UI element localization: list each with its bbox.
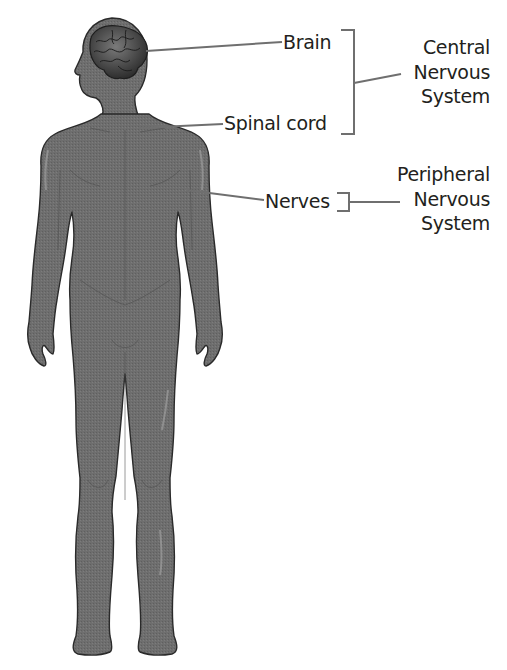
peripheral-nervous-system-label: Peripheral Nervous System bbox=[397, 162, 490, 236]
brain-label: Brain bbox=[283, 30, 331, 54]
cns-bracket-connector bbox=[354, 74, 401, 83]
cns-line-2: Nervous bbox=[414, 60, 490, 85]
pns-line-1: Peripheral bbox=[397, 162, 490, 187]
spinal-cord-label: Spinal cord bbox=[224, 111, 327, 135]
pns-line-2: Nervous bbox=[397, 187, 490, 212]
cns-line-3: System bbox=[414, 84, 490, 109]
pns-bracket bbox=[337, 193, 349, 211]
body-silhouette bbox=[28, 18, 223, 655]
pns-line-3: System bbox=[397, 211, 490, 236]
brain-leader-line bbox=[146, 42, 282, 51]
cns-bracket bbox=[341, 30, 354, 134]
central-nervous-system-label: Central Nervous System bbox=[414, 35, 490, 109]
cns-line-1: Central bbox=[414, 35, 490, 60]
nerves-label: Nerves bbox=[265, 189, 330, 213]
